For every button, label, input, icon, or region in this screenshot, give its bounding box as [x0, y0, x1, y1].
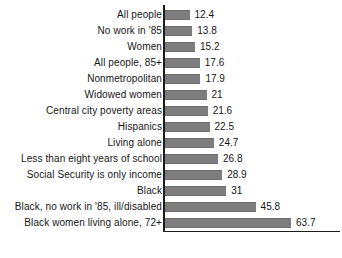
bar-value-label: 21.6: [213, 103, 232, 119]
category-label: No work in '85: [98, 23, 162, 39]
category-label: Less than eight years of school: [21, 151, 162, 167]
bar-and-value: 26.8: [165, 151, 242, 167]
category-label: Nonmetropolitan: [87, 71, 162, 87]
bar-and-value: 22.5: [165, 119, 234, 135]
bar-and-value: 21: [165, 87, 223, 103]
bar-row: Less than eight years of school26.8: [0, 151, 342, 167]
bar: [165, 170, 222, 180]
bar-and-value: 31: [165, 183, 242, 199]
bar: [165, 74, 200, 84]
bar-and-value: 12.4: [165, 7, 214, 23]
bar-and-value: 21.6: [165, 103, 232, 119]
bar-row: Hispanics22.5: [0, 119, 342, 135]
bar-row: Central city poverty areas21.6: [0, 103, 342, 119]
bar-row: Women15.2: [0, 39, 342, 55]
bar-value-label: 15.2: [200, 39, 219, 55]
bar-row: No work in '8513.8: [0, 23, 342, 39]
bar: [165, 186, 226, 196]
category-label: Central city poverty areas: [46, 103, 162, 119]
bar-value-label: 24.7: [219, 135, 238, 151]
bar-row: All people, 85+17.6: [0, 55, 342, 71]
bar: [165, 58, 200, 68]
bar-value-label: 12.4: [195, 7, 214, 23]
bar-value-label: 22.5: [215, 119, 234, 135]
bar-and-value: 63.7: [165, 215, 315, 231]
bar-row: Black, no work in '85, ill/disabled45.8: [0, 199, 342, 215]
bar: [165, 138, 214, 148]
category-label: Living alone: [107, 135, 162, 151]
bar-row: Living alone24.7: [0, 135, 342, 151]
bar: [165, 218, 291, 228]
bar-row: Social Security is only income28.9: [0, 167, 342, 183]
bar-row: Widowed women21: [0, 87, 342, 103]
bar-and-value: 17.6: [165, 55, 224, 71]
bar-and-value: 13.8: [165, 23, 217, 39]
bar-and-value: 45.8: [165, 199, 280, 215]
category-label: Women: [127, 39, 162, 55]
category-label: Widowed women: [85, 87, 162, 103]
bar: [165, 90, 207, 100]
bar: [165, 10, 190, 20]
bar-value-label: 45.8: [261, 199, 280, 215]
bar: [165, 202, 256, 212]
category-label: Black: [137, 183, 162, 199]
bar-row: Black women living alone, 72+63.7: [0, 215, 342, 231]
category-label: All people: [117, 7, 162, 23]
bar-value-label: 63.7: [296, 215, 315, 231]
bar-and-value: 15.2: [165, 39, 220, 55]
bar-row: All people12.4: [0, 7, 342, 23]
bar-row: Black31: [0, 183, 342, 199]
category-label: Social Security is only income: [27, 167, 162, 183]
bar: [165, 154, 218, 164]
category-label: Black women living alone, 72+: [24, 215, 162, 231]
bar-chart: All people12.4No work in '8513.8Women15.…: [0, 0, 342, 258]
category-label: Black, no work in '85, ill/disabled: [15, 199, 162, 215]
bar-rows: All people12.4No work in '8513.8Women15.…: [0, 7, 342, 231]
bar-and-value: 17.9: [165, 71, 225, 87]
bar: [165, 122, 210, 132]
value-axis-line: [163, 231, 340, 232]
bar: [165, 26, 192, 36]
bar-value-label: 17.6: [205, 55, 224, 71]
category-label: Hispanics: [118, 119, 162, 135]
bar-and-value: 24.7: [165, 135, 238, 151]
bar-value-label: 26.8: [223, 151, 242, 167]
bar-value-label: 21: [212, 87, 223, 103]
bar-and-value: 28.9: [165, 167, 247, 183]
category-label: All people, 85+: [94, 55, 162, 71]
bar-row: Nonmetropolitan17.9: [0, 71, 342, 87]
bar-value-label: 28.9: [227, 167, 246, 183]
bar-value-label: 13.8: [197, 23, 216, 39]
bar: [165, 42, 195, 52]
bar-value-label: 17.9: [205, 71, 224, 87]
bar: [165, 106, 208, 116]
bar-value-label: 31: [231, 183, 242, 199]
